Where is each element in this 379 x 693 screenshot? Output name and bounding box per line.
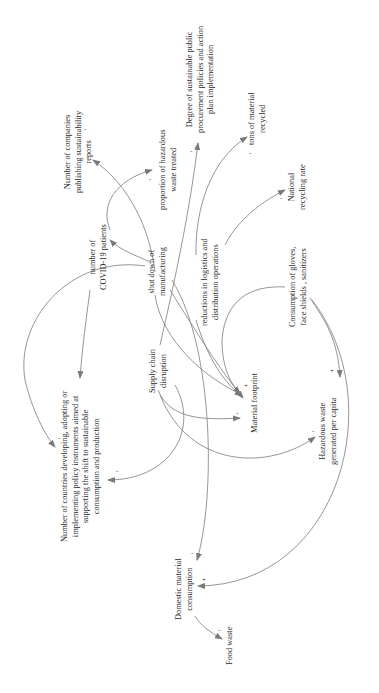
polarity-policy-minus: - [58,435,60,442]
node-line: Consumption of gloves, [288,247,299,327]
node-logistics: reductions in logistics and distribution… [200,238,221,326]
link-covid-to-hazardous-treated [107,170,152,230]
node-line: Number of companies [63,111,74,193]
node-line: distribution operations [211,238,222,326]
causal-loop-diagram: Number of companies publishing sustainab… [0,0,379,693]
node-hazardous-treated: proportion of hazardous waste treated [158,130,179,210]
node-tons-recycled: tons of material recycled [247,92,268,145]
polarity-footprint-minus: - [236,410,238,417]
link-logistics-to-footprint [196,320,242,396]
node-line: number of [88,224,99,290]
node-line: recycled [258,92,269,145]
link-shutdown-to-covid [110,240,150,262]
node-line: recycling rate [298,164,309,210]
node-line: Number of countries developing, adopting… [60,391,71,542]
node-national-recycling: National recycling rate [287,164,308,210]
node-line: reductions in logistics and [200,238,211,326]
link-gloves-to-hazardous-per-capita [310,298,340,377]
node-line: Hazardous waste [318,398,329,465]
node-line: supporting the shift to sustainable [81,391,92,542]
node-line: consumption and production [92,391,103,542]
polarity-domestic-minus: - [191,550,193,557]
node-supply-chain: Supply chain disruption [148,349,169,393]
polarity-hazardous-per-capita-minus: - [312,428,314,435]
node-line: disruption [159,349,170,393]
node-line: Food waste [225,627,236,665]
polarity-domestic-plus: + [202,577,206,584]
node-line: proportion of hazardous [158,130,169,210]
node-line: Supply chain [148,349,159,393]
node-food-waste: Food waste [225,627,236,665]
polarity-footprint-plus: + [244,383,248,390]
node-covid-patients: number of COVID-19 patients [88,224,109,290]
node-companies-reports: Number of companies publishing sustainab… [63,111,95,193]
polarity-hazardous-per-capita-plus: + [330,368,334,375]
node-line: implementing policy instruments aimed at [71,391,82,542]
node-policy-instruments: Number of countries developing, adopting… [60,391,102,542]
polarity-procurement-minus: - [190,148,192,155]
polarity-tons-recycled-minus: - [249,150,251,157]
node-line: shut down of [147,247,158,296]
node-line: Domestic material [174,558,185,620]
node-line: publishing sustainability [74,111,85,193]
node-line: consumption [185,558,196,620]
polarity-hazardous-treated-minus: - [149,176,151,183]
node-line: tons of material [247,92,258,145]
node-material-footprint: Material footprint [250,373,261,433]
node-line: face shields , sanitizers [299,247,310,327]
polarity-national-recycling-minus: - [280,195,282,202]
node-line: plan implementation [206,26,217,133]
node-line: Material footprint [250,373,261,433]
node-line: procurement policies and action [196,26,207,133]
polarity-companies-minus: - [84,126,86,133]
node-line: Degree of sustainable public [185,26,196,133]
node-line: COVID-19 patients [99,224,110,290]
node-gloves: Consumption of gloves, face shields , sa… [288,247,309,327]
polarity-food-waste-minus: - [218,627,220,634]
node-public-procurement: Degree of sustainable public procurement… [185,26,217,133]
link-covid-to-policy [80,290,90,378]
link-to-national-recycling [225,190,285,245]
node-line: National [287,164,298,210]
node-line: generated per capita [329,398,340,465]
node-domestic-consumption: Domestic material consumption [174,558,195,620]
node-line: waste treated [169,130,180,210]
node-hazardous-per-capita: Hazardous waste generated per capita [318,398,339,465]
link-supply-chain-to-policy [108,385,184,480]
node-line: reports [84,111,95,193]
node-shutdown: shut down of manufacturing [147,247,168,296]
polarity-policy2-minus: - [116,468,118,475]
node-line: manufacturing [158,247,169,296]
